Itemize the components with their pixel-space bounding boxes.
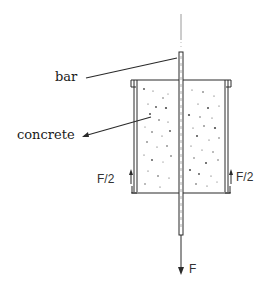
arrow-up-icon: [229, 169, 233, 175]
force-label-total: F: [189, 262, 196, 276]
concrete-label: concrete: [17, 127, 75, 142]
bar-label: bar: [55, 69, 78, 84]
concrete-leader-line: [84, 117, 151, 136]
reaction-arrow-right: [229, 169, 233, 184]
arrow-down-icon: [178, 267, 184, 275]
bar-leader-line: [86, 58, 177, 78]
force-arrow-down: [178, 235, 184, 275]
arrow-up-icon: [129, 169, 133, 175]
reaction-arrow-left: [129, 169, 133, 184]
steel-bar: [179, 52, 183, 235]
force-label-half-right: F/2: [236, 170, 254, 184]
concrete-leader-arrowhead-icon: [82, 132, 89, 137]
force-label-half-left: F/2: [97, 172, 115, 186]
pullout-test-diagram: F F/2 F/2 bar concrete: [0, 0, 269, 292]
